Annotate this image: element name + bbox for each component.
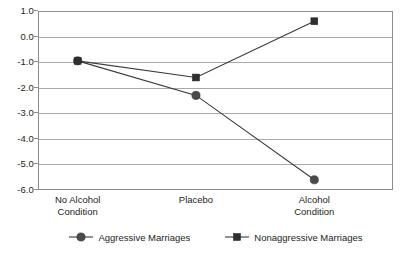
y-tick-label: -3.0 [0,108,34,118]
legend-entry: Nonaggressive Marriages [224,231,362,243]
gridline [39,62,392,63]
y-tick-label: 1.0 [0,6,34,16]
gridline [39,139,392,140]
legend-entry: Aggressive Marriages [68,231,190,243]
x-tick-label: AlcoholCondition [294,194,334,217]
gridline [39,37,392,38]
x-tick-label-line: No Alcohol [55,194,100,206]
y-tick-label: -4.0 [0,134,34,144]
x-tick-label-line: Condition [55,206,100,218]
x-tick-label-line: Alcohol [294,194,334,206]
legend-label: Aggressive Marriages [98,232,190,243]
legend-label: Nonaggressive Marriages [254,232,362,243]
plot-area [38,11,393,190]
x-tick-label-line: Placebo [179,194,213,206]
x-tick-label: No AlcoholCondition [55,194,100,217]
y-tick-label: -1.0 [0,57,34,67]
x-axis: No AlcoholConditionPlaceboAlcoholConditi… [38,194,393,220]
y-tick-label: -2.0 [0,83,34,93]
gridline [39,88,392,89]
x-tick-label-line: Condition [294,206,334,218]
y-tick-label: -5.0 [0,159,34,169]
y-axis: 1.00.0-1.0-2.0-3.0-4.0-5.0-6.0 [0,0,34,200]
legend-square-icon [224,231,250,243]
x-tick-label: Placebo [179,194,213,206]
y-tick-label: -6.0 [0,185,34,195]
gridline [39,164,392,165]
gridline [39,113,392,114]
line-chart-figure: 1.00.0-1.0-2.0-3.0-4.0-5.0-6.0 No Alcoho… [0,0,400,257]
legend-circle-icon [68,231,94,243]
chart-legend: Aggressive MarriagesNonaggressive Marria… [38,226,393,248]
y-tick-label: 0.0 [0,32,34,42]
